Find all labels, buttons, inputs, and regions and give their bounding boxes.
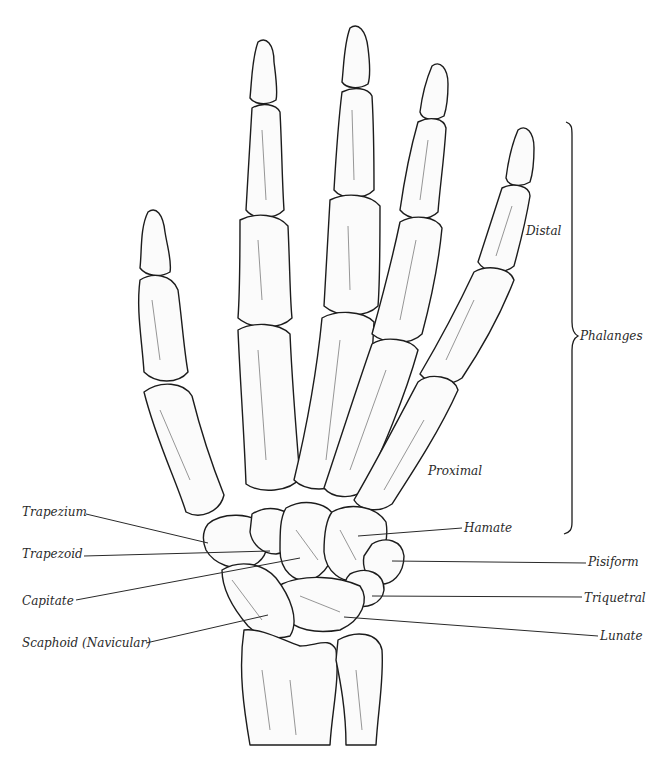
- phalanges-brace: [564, 122, 578, 534]
- leader-pisiform: [392, 561, 586, 563]
- label-capitate: Capitate: [22, 594, 74, 608]
- leader-triquetral: [372, 596, 582, 597]
- label-hamate: Hamate: [464, 521, 512, 535]
- label-scaphoid: Scaphoid (Navicular): [22, 636, 151, 650]
- index-finger: [238, 40, 300, 490]
- thumb: [139, 210, 224, 515]
- leader-trapezium: [86, 514, 208, 543]
- label-trapezoid: Trapezoid: [22, 547, 83, 561]
- hand-skeleton-diagram: Distal Phalanges Proximal Trapezium Trap…: [0, 0, 666, 769]
- label-distal: Distal: [526, 224, 561, 238]
- label-triquetral: Triquetral: [584, 591, 646, 605]
- forearm-bones: [242, 630, 383, 745]
- label-lunate: Lunate: [600, 629, 643, 643]
- hand-bones-illustration: [0, 0, 666, 769]
- label-pisiform: Pisiform: [588, 555, 639, 569]
- label-proximal: Proximal: [428, 464, 482, 478]
- label-phalanges: Phalanges: [580, 329, 643, 343]
- leader-lunate: [344, 617, 598, 636]
- label-trapezium: Trapezium: [22, 505, 87, 519]
